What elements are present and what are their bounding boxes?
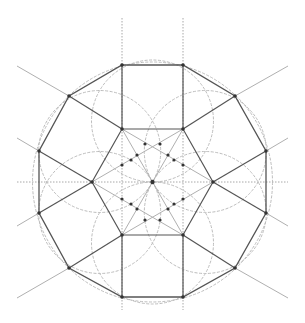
- center-point: [150, 180, 154, 184]
- intersection-point: [129, 158, 132, 161]
- intersection-point: [158, 218, 161, 221]
- vertex-point: [181, 233, 185, 237]
- vertex-point: [37, 149, 41, 153]
- vertex-point: [120, 63, 124, 67]
- vertex-point: [67, 266, 71, 270]
- extension-line: [17, 213, 39, 226]
- intersection-point: [143, 142, 146, 145]
- intersection-point: [135, 153, 138, 156]
- spoke-line: [69, 96, 122, 129]
- spoke-line: [183, 96, 235, 129]
- spoke-line: [213, 151, 266, 182]
- extension-line: [235, 66, 288, 96]
- dodecagon-construction-figure: [0, 0, 305, 323]
- vertex-point: [120, 295, 124, 299]
- intersection-point: [158, 142, 161, 145]
- vertex-points: [37, 63, 268, 299]
- vertex-point: [90, 180, 94, 184]
- vertex-point: [233, 94, 237, 98]
- intersection-point: [120, 163, 123, 166]
- intersection-point: [166, 207, 169, 210]
- intersection-point: [135, 207, 138, 210]
- vertex-point: [181, 295, 185, 299]
- intersection-point: [181, 197, 184, 200]
- intersection-point: [172, 202, 175, 205]
- extension-line: [17, 268, 69, 298]
- spoke-line: [39, 151, 92, 182]
- vertex-point: [181, 127, 185, 131]
- extension-line: [266, 213, 288, 226]
- vertex-point: [67, 94, 71, 98]
- extension-line: [235, 268, 288, 298]
- vertex-point: [264, 211, 268, 215]
- vertex-point: [181, 63, 185, 67]
- spoke-line: [213, 182, 266, 213]
- intersection-point: [181, 163, 184, 166]
- intersection-point: [172, 158, 175, 161]
- vertex-point: [233, 266, 237, 270]
- vertex-point: [264, 149, 268, 153]
- intersection-point: [166, 153, 169, 156]
- extension-line: [266, 138, 288, 151]
- intersection-point: [120, 197, 123, 200]
- vertex-point: [120, 233, 124, 237]
- spoke-line: [69, 235, 122, 268]
- extension-line: [17, 138, 39, 151]
- vertex-point: [211, 180, 215, 184]
- intersection-point: [129, 202, 132, 205]
- spoke-line: [39, 182, 92, 213]
- diagram-canvas: Geometric construction of a regular dode…: [0, 0, 305, 323]
- spoke-line: [183, 235, 235, 268]
- extension-line: [17, 66, 69, 96]
- vertex-point: [37, 211, 41, 215]
- vertex-point: [120, 127, 124, 131]
- intersection-point: [143, 218, 146, 221]
